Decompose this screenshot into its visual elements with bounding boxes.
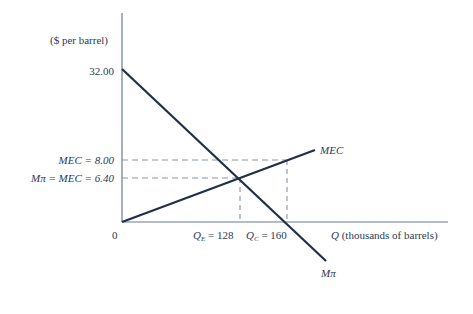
- mec-curve-label: MEC: [320, 144, 343, 156]
- x-tick-qc: QC = 160: [246, 229, 287, 245]
- x-axis-q: Q: [331, 229, 339, 241]
- x-axis-unit: (thousands of barrels): [339, 229, 438, 241]
- y-tick-mec-8: MEC = 8.00: [20, 154, 114, 166]
- qc-q: Q: [246, 229, 254, 241]
- qe-q: Q: [193, 229, 201, 241]
- x-tick-qe: QE = 128: [193, 229, 233, 245]
- mpi-curve-label: Mπ: [321, 267, 336, 279]
- qe-rest: = 128: [205, 229, 233, 241]
- y-axis-unit-label: ($ per barrel): [50, 34, 108, 46]
- x-axis-label: Q (thousands of barrels): [331, 229, 438, 241]
- qc-rest: = 160: [259, 229, 287, 241]
- y-tick-32: 32.00: [40, 65, 114, 77]
- y-tick-6-40: Mπ = MEC = 6.40: [0, 172, 114, 184]
- origin-label: 0: [112, 229, 118, 241]
